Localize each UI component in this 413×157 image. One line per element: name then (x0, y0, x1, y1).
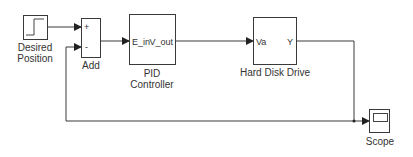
pid-input-port-label: E_in (132, 37, 150, 47)
scope-label: Scope (366, 136, 394, 147)
signal-wires (0, 0, 413, 157)
wire-feedback-to-add[interactable] (66, 47, 354, 121)
branch-point (353, 120, 356, 123)
add-block[interactable]: + - (81, 18, 101, 58)
add-label: Add (82, 60, 100, 71)
pid-label-line1: PID (144, 68, 161, 79)
wire-hdd-to-scope[interactable] (297, 41, 369, 121)
pid-output-port-label: V_out (149, 37, 173, 47)
add-port-plus: + (84, 22, 89, 32)
hdd-output-port-label: Y (287, 37, 293, 47)
pid-label-line2: Controller (130, 79, 173, 90)
hdd-input-port-label: Va (256, 37, 266, 47)
step-label-line2: Position (17, 53, 53, 64)
hard-disk-drive-block[interactable]: Va Y (253, 17, 297, 65)
step-label-line1: Desired (18, 42, 52, 53)
step-icon (24, 16, 47, 39)
add-port-minus: - (85, 42, 88, 52)
desired-position-step-block[interactable] (23, 15, 48, 40)
scope-screen-icon (373, 113, 388, 122)
scope-block[interactable] (369, 109, 390, 133)
diagram-canvas: Desired Position + - Add E_in V_out PID … (0, 0, 413, 157)
hdd-label: Hard Disk Drive (240, 67, 310, 78)
pid-controller-block[interactable]: E_in V_out (129, 14, 176, 65)
